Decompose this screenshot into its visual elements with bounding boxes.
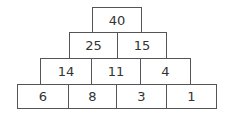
pyramid-cell-r1-c1: 40 — [92, 7, 142, 33]
pyramid-cell-r3-c3: 4 — [140, 58, 191, 85]
pyramid-cell-r4-c3: 3 — [116, 84, 167, 109]
pyramid-cell-r3-c2: 11 — [91, 58, 141, 85]
pyramid-cell-r4-c1: 6 — [17, 84, 69, 109]
pyramid-cell-r3-c1: 14 — [40, 58, 92, 85]
pyramid-cell-r2-c1: 25 — [69, 32, 118, 59]
pyramid-cell-r4-c2: 8 — [68, 84, 117, 109]
pyramid-cell-r2-c2: 15 — [117, 32, 167, 59]
pyramid-cell-r4-c4: 1 — [166, 84, 217, 109]
